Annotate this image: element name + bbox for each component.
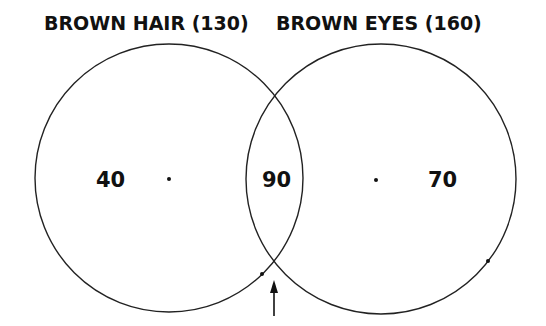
brown-eyes-only-value: 70 bbox=[428, 168, 457, 192]
point-dot-left bbox=[260, 272, 264, 276]
venn-diagram: 40 90 70 bbox=[0, 0, 546, 326]
center-dot-left bbox=[167, 177, 171, 181]
brown-hair-only-value: 40 bbox=[96, 168, 125, 192]
intersection-value: 90 bbox=[262, 168, 291, 192]
arrow-icon bbox=[270, 280, 278, 316]
center-dot-right bbox=[374, 178, 378, 182]
point-dot-right bbox=[486, 259, 490, 263]
